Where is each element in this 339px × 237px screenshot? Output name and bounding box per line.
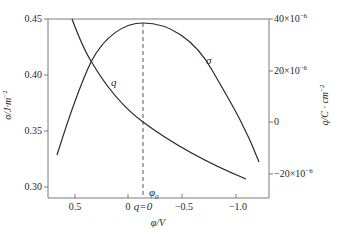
y-left-axis-title: σ/J·m−2 [1,90,13,120]
y-right-tick-label: 0 [274,116,279,127]
y-right-tick-label: 40×10−6 [274,12,308,24]
q-curve [72,19,246,179]
y-right-axis-title: q/C · cm−2 [318,84,330,126]
x-tick-label: 0.5 [69,201,82,212]
left-y-ticks: 0.45 0.40 0.35 0.30 [25,13,49,192]
right-y-ticks: 40×10−6 20×10−6 0 −20×10−6 [269,12,313,179]
x-tick-label: 0 [126,201,131,212]
x-axis-title: φ/V [151,217,167,228]
plot-frame [48,19,269,198]
phi0-label: φ0 [149,186,159,201]
x-tick-label: −0.5 [175,201,193,212]
sigma-curve-label: σ [206,54,212,66]
y-right-tick-label: 20×10−6 [274,64,308,76]
y-left-tick-label: 0.30 [25,181,43,192]
y-left-tick-label: 0.35 [25,125,43,136]
electrocapillary-chart: 0.45 0.40 0.35 0.30 40×10−6 20×10−6 0 −2… [0,0,339,237]
x-tick-label: −1.0 [229,201,247,212]
q-curve-label: q [111,76,117,88]
sigma-curve [57,23,259,162]
y-right-tick-label: −20×10−6 [274,167,313,179]
q-zero-label: q=0 [134,200,153,212]
y-left-tick-label: 0.40 [25,69,43,80]
y-left-tick-label: 0.45 [25,13,43,24]
